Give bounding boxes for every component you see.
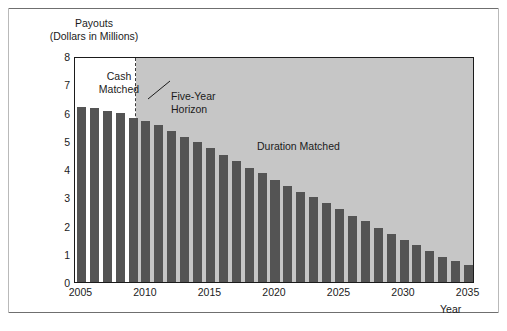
bar bbox=[270, 180, 279, 282]
bar bbox=[425, 251, 434, 282]
annotation-cash-matched: Cash Matched bbox=[91, 70, 147, 95]
y-axis-title: Payouts (Dollars in Millions) bbox=[14, 17, 174, 43]
bar bbox=[438, 257, 447, 282]
y-tick-label: 5 bbox=[40, 136, 70, 148]
y-tick-label: 7 bbox=[40, 79, 70, 91]
x-tick-label: 2025 bbox=[315, 286, 363, 298]
bar bbox=[129, 118, 138, 282]
x-tick-label: 2020 bbox=[250, 286, 298, 298]
y-tick-label: 6 bbox=[40, 108, 70, 120]
bar bbox=[451, 261, 460, 282]
figure-frame-right-rule bbox=[498, 8, 499, 313]
plot-area: Cash Matched Five-Year Horizon Duration … bbox=[74, 57, 474, 283]
x-tick-label: 2015 bbox=[185, 286, 233, 298]
bar bbox=[464, 265, 473, 282]
bar bbox=[219, 155, 228, 282]
bar bbox=[348, 216, 357, 282]
bar bbox=[180, 137, 189, 282]
bar bbox=[206, 148, 215, 282]
y-tick-label: 4 bbox=[40, 164, 70, 176]
x-axis-title: Year bbox=[440, 303, 461, 315]
bar bbox=[154, 125, 163, 282]
bar bbox=[116, 113, 125, 283]
bar bbox=[283, 186, 292, 282]
x-tick-label: 2030 bbox=[379, 286, 427, 298]
y-tick-label: 8 bbox=[40, 51, 70, 63]
y-axis-title-line2: (Dollars in Millions) bbox=[14, 30, 174, 43]
bar bbox=[245, 168, 254, 282]
bar bbox=[193, 142, 202, 282]
bar bbox=[296, 192, 305, 282]
bar bbox=[309, 197, 318, 282]
bar bbox=[374, 228, 383, 282]
bar bbox=[141, 121, 150, 282]
bar bbox=[335, 209, 344, 282]
bar bbox=[167, 131, 176, 282]
x-tick-label: 2010 bbox=[121, 286, 169, 298]
bar bbox=[90, 108, 99, 282]
bar bbox=[258, 173, 267, 282]
bar bbox=[412, 245, 421, 282]
bar bbox=[322, 203, 331, 282]
x-axis: 2005201020152020202520302035 bbox=[74, 286, 474, 306]
y-axis: 012345678 bbox=[38, 57, 70, 283]
y-axis-title-line1: Payouts bbox=[14, 17, 174, 30]
x-tick-label: 2035 bbox=[444, 286, 492, 298]
y-tick-label: 3 bbox=[40, 192, 70, 204]
chart-figure: Payouts (Dollars in Millions) 012345678 … bbox=[0, 0, 507, 331]
figure-frame-top-rule bbox=[8, 8, 499, 9]
bar bbox=[103, 111, 112, 282]
y-tick-label: 2 bbox=[40, 221, 70, 233]
figure-frame-left-rule bbox=[8, 8, 9, 313]
annotation-five-year-horizon: Five-Year Horizon bbox=[171, 90, 241, 115]
figure-frame-bottom-rule bbox=[8, 312, 499, 313]
bar bbox=[400, 240, 409, 282]
x-tick-label: 2005 bbox=[56, 286, 104, 298]
annotation-duration-matched: Duration Matched bbox=[257, 140, 340, 153]
bar bbox=[361, 221, 370, 282]
y-tick-label: 1 bbox=[40, 249, 70, 261]
bar bbox=[232, 161, 241, 282]
bar bbox=[387, 234, 396, 282]
bar bbox=[77, 107, 86, 282]
